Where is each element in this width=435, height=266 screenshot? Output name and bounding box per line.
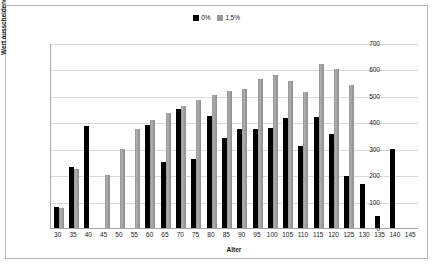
chart-legend: 0% 1,5% [6,15,427,22]
x-axis-tick-label: 100 [265,232,280,239]
bar-group [158,44,173,228]
x-axis-title: Alter [50,246,418,253]
bar-15 [150,120,155,228]
bar-0 [84,126,89,228]
legend-entry-series-1: 1,5% [217,15,239,22]
legend-swatch-gray-icon [217,15,223,21]
bar-group [235,44,250,228]
bar-15 [212,95,217,228]
bar-15 [105,175,110,228]
bar-0 [360,184,365,228]
bar-15 [135,129,140,228]
x-axis-tick-label: 30 [50,232,65,239]
bar-15 [196,100,201,228]
bar-15 [59,208,64,228]
x-axis-tick-label: 130 [357,232,372,239]
plot-area [50,44,418,229]
x-axis-tick-label: 75 [188,232,203,239]
x-axis-tick-label: 35 [65,232,80,239]
bar-group [97,44,112,228]
x-axis-tick-label: 40 [81,232,96,239]
x-axis-tick-label: 80 [203,232,218,239]
bar-group [143,44,158,228]
y-axis-tick-label: 700 [369,41,380,48]
bar-15 [303,92,308,228]
bar-group [189,44,204,228]
bar-group [66,44,81,228]
bar-15 [242,89,247,228]
chart-container: 0% 1,5% Wert ausscheidender Vorrat (€/ha… [5,5,428,259]
bar-15 [227,91,232,228]
bar-group [127,44,142,228]
bar-group [112,44,127,228]
x-axis-tick-label: 50 [111,232,126,239]
x-axis-tick-label: 60 [142,232,157,239]
x-axis-tick-label: 140 [387,232,402,239]
legend-label-series-1: 1,5% [225,15,239,22]
bar-group [388,44,403,228]
bar-group [296,44,311,228]
bar-group [204,44,219,228]
x-axis-ticks: 3035404550556065707580859095100105110115… [50,232,418,239]
x-axis-tick-label: 125 [341,232,356,239]
bar-group [311,44,326,228]
x-axis-tick-label: 105 [280,232,295,239]
bar-group [173,44,188,228]
x-axis-tick-label: 45 [96,232,111,239]
bar-group [280,44,295,228]
x-axis-tick-label: 135 [372,232,387,239]
bar-group [82,44,97,228]
x-axis-tick-label: 120 [326,232,341,239]
x-axis-tick-label: 115 [311,232,326,239]
legend-swatch-black-icon [193,15,199,21]
x-axis-tick-label: 70 [173,232,188,239]
bar-15 [288,81,293,228]
bar-15 [120,149,125,228]
legend-entry-series-0: 0% [193,15,210,22]
y-axis-tick-label: 500 [369,94,380,101]
bar-group [250,44,265,228]
bar-15 [319,64,324,228]
bar-15 [334,69,339,228]
x-axis-tick-label: 85 [219,232,234,239]
bar-group [342,44,357,228]
bar-15 [181,106,186,228]
bar-series-group [51,44,418,228]
bar-group [265,44,280,228]
bar-15 [258,79,263,228]
bar-group [403,44,418,228]
x-axis-tick-label: 90 [234,232,249,239]
x-axis-tick-label: 110 [295,232,310,239]
y-axis-tick-label: 100 [369,200,380,207]
legend-label-series-0: 0% [201,15,210,22]
bar-15 [273,75,278,228]
bar-group [326,44,341,228]
bar-15 [74,169,79,228]
x-axis-tick-label: 55 [127,232,142,239]
y-axis-tick-label: 200 [369,173,380,180]
bar-15 [166,113,171,228]
y-axis-tick-label: 300 [369,147,380,154]
y-axis-tick-label: 600 [369,67,380,74]
x-axis-tick-label: 65 [157,232,172,239]
x-axis-tick-label: 145 [403,232,418,239]
bar-group [219,44,234,228]
bar-0 [390,149,395,228]
y-axis-tick-label: 400 [369,120,380,127]
bar-group [51,44,66,228]
y-axis-title: Wert ausscheidender Vorrat (€/ha) [0,0,7,84]
bar-15 [349,85,354,228]
x-axis-tick-label: 95 [249,232,264,239]
